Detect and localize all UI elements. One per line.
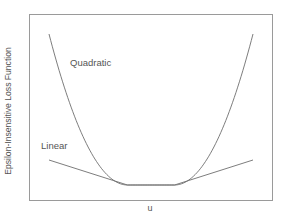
linear-label: Linear <box>41 140 67 151</box>
linear-curve <box>49 160 253 185</box>
quadratic-label: Quadratic <box>70 57 111 68</box>
loss-function-chart: Quadratic Linear u Epsilon-Insensitive L… <box>0 0 288 219</box>
y-axis-label: Epsilon-Insensitive Loss Function <box>3 47 13 175</box>
plot-frame <box>30 15 273 201</box>
x-axis-label: u <box>147 203 152 213</box>
